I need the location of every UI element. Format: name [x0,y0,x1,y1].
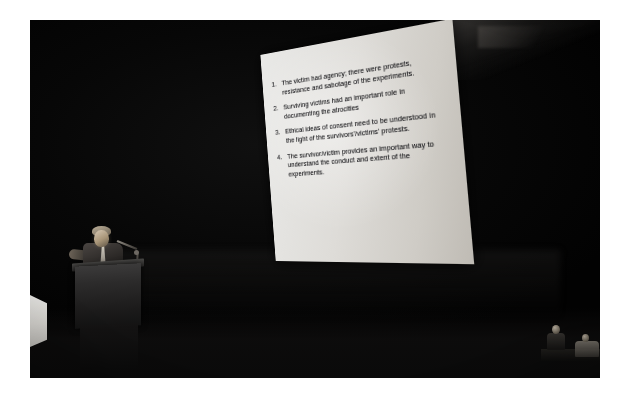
projection-screen: 1. The victim had agency; there were pro… [260,20,474,264]
seated-figure-right-head [582,334,589,342]
microphone-icon [134,250,139,255]
speaker-at-podium [50,210,160,378]
slide-bullet-1-number: 1. [271,80,277,90]
slide-bullet-4-text: The survivor/victim provides an importan… [287,138,449,179]
seated-figure-left-head [552,325,560,334]
slide-bullet-2-number: 2. [273,104,279,113]
slide-bullet-list: 1. The victim had agency; there were pro… [271,54,448,180]
photo-frame: 1. The victim had agency; there were pro… [0,0,628,408]
speaker-head [94,230,109,247]
projection-screen-area: 1. The victim had agency; there were pro… [220,25,490,295]
seated-figure-right-body [575,341,599,357]
slide-content: 1. The victim had agency; there were pro… [260,20,474,264]
seated-figure-left-body [547,333,565,350]
slide-bullet-4: 4. The survivor/victim provides an impor… [277,138,449,180]
slide-bullet-3-number: 3. [275,128,281,137]
photograph: 1. The victim had agency; there were pro… [30,20,600,378]
lectern [75,263,141,328]
slide-bullet-4-number: 4. [277,152,283,161]
stage-light-spill [30,295,47,347]
lectern-base [80,323,138,373]
seated-audience [535,315,600,377]
